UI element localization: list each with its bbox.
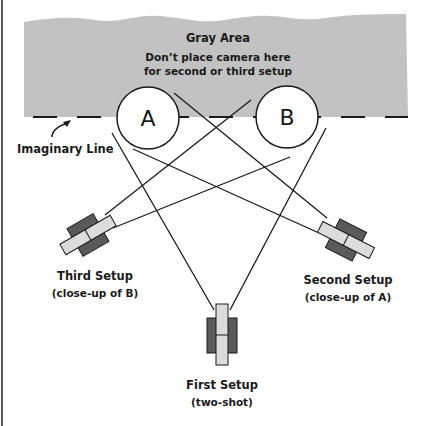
first-setup-subtitle: (two-shot) (191, 396, 253, 408)
sight-line-first-left (112, 133, 214, 310)
subject-a-label: A (140, 106, 155, 131)
second-setup-title: Second Setup (303, 273, 392, 287)
subject-a: A (117, 87, 179, 149)
subject-b-label: B (279, 105, 294, 130)
sight-line-second-lower (133, 149, 319, 233)
third-setup-title: Third Setup (57, 269, 133, 283)
camera-first-setup (207, 304, 237, 365)
camera-second-setup (313, 213, 379, 268)
gray-area-note-line1: Don’t place camera here (145, 51, 290, 63)
camera-setup-diagram: Gray Area Don’t place camera here for se… (0, 0, 422, 426)
subject-b: B (256, 86, 318, 148)
gray-area-note-line2: for second or third setup (144, 65, 292, 77)
second-setup-subtitle: (close-up of A) (305, 291, 392, 303)
third-setup-subtitle: (close-up of B) (52, 287, 138, 299)
first-setup-title: First Setup (186, 378, 258, 392)
gray-area-title: Gray Area (186, 31, 250, 45)
camera-third-setup (55, 207, 121, 264)
imaginary-line-label: Imaginary Line (17, 142, 114, 156)
sight-line-third-lower (113, 157, 290, 228)
